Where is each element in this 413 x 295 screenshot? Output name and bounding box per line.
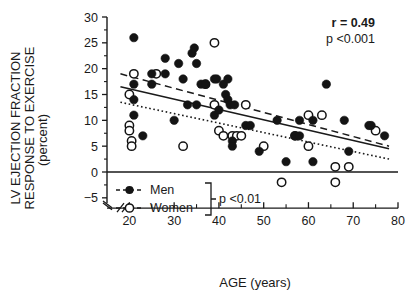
axis-lines: [103, 17, 398, 212]
x-tick-label: 40: [212, 214, 226, 228]
scatter-plot: −5051015202530 20304050607080 LV EJECTIO…: [0, 0, 413, 295]
y-axis-title-line1: LV EJECTION FRACTION: [8, 52, 23, 205]
data-point-men: [228, 142, 236, 150]
data-point-men: [130, 111, 138, 119]
x-tick-label: 50: [257, 214, 271, 228]
statistics-annotation: r = 0.49 p <0.001: [326, 16, 375, 46]
data-point-women: [210, 39, 218, 47]
legend-label-women: Women: [150, 201, 193, 215]
data-point-women: [127, 142, 135, 150]
data-point-men: [130, 95, 138, 103]
chart-figure: −5051015202530 20304050607080 LV EJECTIO…: [0, 0, 413, 295]
data-point-men: [255, 147, 263, 155]
data-point-men: [295, 116, 303, 124]
data-point-men: [246, 121, 254, 129]
data-point-men: [340, 116, 348, 124]
data-point-women: [345, 163, 353, 171]
y-tick-label: 30: [84, 11, 98, 25]
data-point-women: [331, 178, 339, 186]
y-tick-label: 25: [84, 36, 98, 50]
data-point-men: [139, 132, 147, 140]
data-point-women: [318, 111, 326, 119]
legend-item-men[interactable]: Men: [116, 183, 174, 197]
y-axis-title-line3: (percent): [35, 114, 50, 166]
data-point-men: [130, 80, 138, 88]
data-point-men: [161, 70, 169, 78]
y-tick-label: 10: [84, 114, 98, 128]
x-tick-label: 20: [122, 214, 136, 228]
legend-label-men: Men: [150, 183, 174, 197]
legend-marker-men-filled-circle-icon: [125, 186, 133, 194]
data-point-women: [219, 132, 227, 140]
p-value-label: p <0.001: [326, 32, 375, 46]
data-point-men: [215, 106, 223, 114]
x-tick-label: 70: [346, 214, 360, 228]
legend: Men Women p <0.01: [116, 183, 261, 215]
y-axis-tick-labels: −5051015202530: [84, 11, 98, 206]
data-point-men: [282, 157, 290, 165]
legend-item-women[interactable]: Women: [116, 201, 193, 215]
data-point-men: [148, 80, 156, 88]
data-point-women: [179, 142, 187, 150]
data-point-men: [224, 75, 232, 83]
data-point-men: [322, 80, 330, 88]
data-point-men: [174, 59, 182, 67]
x-tick-label: 60: [302, 214, 316, 228]
y-tick-label: 15: [84, 88, 98, 102]
data-point-men: [309, 116, 317, 124]
data-point-women: [242, 101, 250, 109]
data-point-men: [161, 54, 169, 62]
data-point-men: [345, 147, 353, 155]
data-point-men: [148, 70, 156, 78]
men-fit: [120, 74, 389, 146]
x-tick-label: 30: [167, 214, 181, 228]
y-tick-label: −5: [84, 191, 98, 205]
data-point-women: [304, 142, 312, 150]
y-axis-title: LV EJECTION FRACTION RESPONSE TO EXERCIS…: [8, 46, 50, 209]
data-point-men: [367, 121, 375, 129]
y-tick-label: 0: [91, 166, 98, 180]
regression-lines: [120, 74, 389, 159]
overall-fit: [120, 87, 389, 149]
correlation-label: r = 0.49: [332, 16, 375, 30]
data-point-women: [237, 132, 245, 140]
data-point-men: [183, 101, 191, 109]
y-tick-label: 5: [91, 140, 98, 154]
data-point-women: [125, 126, 133, 134]
data-point-men: [273, 116, 281, 124]
y-axis-ticks: [102, 17, 107, 198]
y-tick-label: 20: [84, 62, 98, 76]
data-point-men: [201, 80, 209, 88]
data-point-men: [380, 132, 388, 140]
data-point-women: [331, 163, 339, 171]
data-point-men: [309, 157, 317, 165]
data-point-men: [130, 33, 138, 41]
data-point-men: [190, 44, 198, 52]
data-point-men: [230, 101, 238, 109]
legend-bracket: [205, 183, 216, 215]
data-point-men: [295, 132, 303, 140]
data-point-men: [179, 75, 187, 83]
data-point-men: [192, 59, 200, 67]
legend-bracket-note: p <0.01: [219, 192, 261, 206]
data-point-men: [192, 101, 200, 109]
data-point-women: [277, 178, 285, 186]
x-axis-tick-labels: 20304050607080: [122, 214, 405, 228]
legend-marker-women-open-circle-icon: [125, 204, 133, 212]
data-point-women: [130, 70, 138, 78]
data-point-men: [170, 116, 178, 124]
x-tick-label: 80: [391, 214, 405, 228]
x-axis-title: AGE (years): [219, 275, 291, 290]
